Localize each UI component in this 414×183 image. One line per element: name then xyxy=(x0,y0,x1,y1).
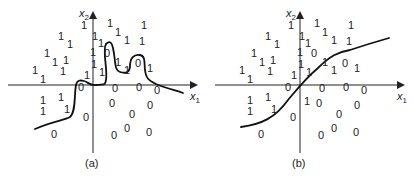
class-0-point: 0 xyxy=(342,57,348,69)
class-1-point: 1 xyxy=(297,46,303,58)
class-1-point: 1 xyxy=(64,103,70,115)
class-0-point: 0 xyxy=(319,82,325,94)
class-1-point: 1 xyxy=(81,19,87,31)
class-0-point: 0 xyxy=(331,122,337,134)
class-1-point: 1 xyxy=(99,66,105,78)
class-0-point: 0 xyxy=(83,111,89,123)
class-1-point: 1 xyxy=(141,19,147,31)
class-0-point: 0 xyxy=(336,108,342,120)
classification-diagram: x2 x1 111111111111111111111111111 000000… xyxy=(0,0,414,183)
class-1-point: 1 xyxy=(304,95,310,107)
class-1-point: 1 xyxy=(322,26,328,38)
class-1-point: 1 xyxy=(247,105,253,117)
class-0-point: 0 xyxy=(354,99,360,111)
class-0-point: 0 xyxy=(112,82,118,94)
class-0-point: 0 xyxy=(136,81,142,93)
class-0-point: 0 xyxy=(361,84,367,96)
class-1-point: 1 xyxy=(298,58,304,70)
panel-caption-a: (a) xyxy=(85,157,98,169)
class-1-point: 1 xyxy=(139,35,145,47)
panel-caption-b: (b) xyxy=(292,157,305,169)
class-0-point: 0 xyxy=(343,81,349,93)
class-1-point: 1 xyxy=(32,64,38,76)
class-1-point: 1 xyxy=(265,91,271,103)
class-0-point: 0 xyxy=(353,126,359,138)
class-1-point: 1 xyxy=(147,62,153,74)
class-1-point: 1 xyxy=(58,30,64,42)
class-1-point: 1 xyxy=(354,62,360,74)
class-0-point: 0 xyxy=(111,129,117,141)
panel-a: x2 x1 111111111111111111111111111 000000… xyxy=(8,7,201,169)
class-1-point: 1 xyxy=(274,38,280,50)
class-1-point: 1 xyxy=(124,34,130,46)
class-0-point: 0 xyxy=(135,57,141,69)
class-1-point: 1 xyxy=(115,56,121,68)
class-0-point: 0 xyxy=(318,129,324,141)
class-1-point: 1 xyxy=(247,73,253,85)
class-0-point: 0 xyxy=(51,128,57,140)
class-1-point: 1 xyxy=(348,19,354,31)
class-0-point: 0 xyxy=(154,84,160,96)
class-1-point: 1 xyxy=(60,65,66,77)
x1-axis-label-b: x1 xyxy=(396,90,408,105)
class-0-point: 0 xyxy=(129,108,135,120)
class-0-point: 0 xyxy=(104,47,110,59)
class-1-point: 1 xyxy=(107,17,113,29)
class-1-point: 1 xyxy=(267,65,273,77)
class-1-point: 1 xyxy=(265,30,271,42)
class-1-point: 1 xyxy=(40,73,46,85)
class-1-point: 1 xyxy=(291,69,297,81)
class-1-point: 1 xyxy=(58,91,64,103)
class-0-point: 0 xyxy=(146,126,152,138)
class-0-point: 0 xyxy=(258,128,264,140)
class-1-point: 1 xyxy=(331,64,337,76)
class-0-point: 0 xyxy=(78,81,84,93)
class-0-point: 0 xyxy=(124,122,130,134)
class-1-point: 1 xyxy=(322,56,328,68)
class-1-point: 1 xyxy=(271,103,277,115)
x1-axis-label-a: x1 xyxy=(189,90,201,105)
class-1-point: 1 xyxy=(91,58,97,70)
class-0-point: 0 xyxy=(290,111,296,123)
class-1-point: 1 xyxy=(331,34,337,46)
class-0-point: 0 xyxy=(316,97,322,109)
class-1-point: 1 xyxy=(288,19,294,31)
panel-b: x2 x1 1111111111111111111111111111 00000… xyxy=(215,7,408,169)
class-0-point: 0 xyxy=(147,99,153,111)
class-0-point: 0 xyxy=(311,47,317,59)
class-1-point: 1 xyxy=(239,64,245,76)
class-1-point: 1 xyxy=(115,26,121,38)
class-1-point: 1 xyxy=(124,64,130,76)
class-1-point: 1 xyxy=(314,17,320,29)
class-1-point: 1 xyxy=(259,56,265,68)
class-1-point: 1 xyxy=(306,66,312,78)
class-1-point: 1 xyxy=(84,69,90,81)
class-1-point: 1 xyxy=(251,47,257,59)
class-0-point: 0 xyxy=(285,81,291,93)
class-1-point: 1 xyxy=(44,47,50,59)
class-1-point: 1 xyxy=(52,56,58,68)
class-1-point: 1 xyxy=(40,105,46,117)
class-0-point: 0 xyxy=(109,97,115,109)
class-1-point: 1 xyxy=(67,38,73,50)
class-1-point: 1 xyxy=(90,46,96,58)
class-1-point: 1 xyxy=(346,35,352,47)
